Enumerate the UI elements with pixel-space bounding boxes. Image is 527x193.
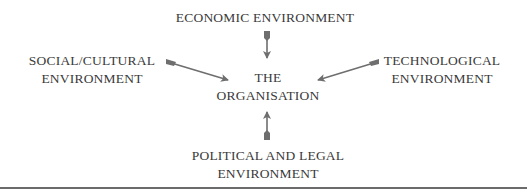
arrow-right-icon [318,59,379,80]
arrow-top-icon [264,31,270,58]
arrows-layer [0,0,527,193]
arrow-bottom-icon [264,112,270,140]
arrow-left-icon [166,59,228,80]
horizontal-rule [0,187,527,189]
